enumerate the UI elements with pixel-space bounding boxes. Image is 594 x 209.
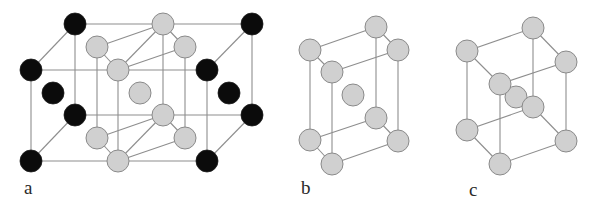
crystal-structures-figure: a b c (0, 0, 594, 209)
atom-gray-center (342, 84, 364, 106)
atom-gray-top-right (555, 51, 577, 73)
atom-black-bottom-back-left (64, 104, 86, 126)
atom-gray-top-front (489, 73, 511, 95)
atom-black-top-front-right (196, 59, 218, 81)
atom-gray-bottom-back (522, 96, 544, 118)
atom-gray-bottom-back (365, 107, 387, 129)
crystal-structures-svg (0, 0, 594, 209)
atom-gray-bottom-right (555, 130, 577, 152)
atom-black-bottom-front-left (20, 150, 42, 172)
atom-gray-center (129, 82, 151, 104)
atom-black-top-back-left (64, 13, 86, 35)
atom-gray-bottom-back (152, 104, 174, 126)
atom-gray-bottom-front (321, 153, 343, 175)
atom-gray-top-right (387, 39, 409, 61)
unit-cell-a (20, 13, 263, 172)
atom-black-face-left (42, 82, 64, 104)
atom-gray-top-front (107, 59, 129, 81)
unit-cell-b (299, 16, 409, 175)
atom-gray-bottom-right (387, 130, 409, 152)
panel-label-a: a (24, 178, 32, 197)
atom-gray-bottom-front (107, 150, 129, 172)
atom-black-bottom-front-right (196, 150, 218, 172)
atom-black-top-back-right (241, 13, 263, 35)
panel-label-b: b (301, 178, 311, 197)
atom-black-face-right (218, 82, 240, 104)
atom-black-bottom-back-right (241, 104, 263, 126)
atom-gray-top-left (456, 40, 478, 62)
atom-gray-top-front (321, 61, 343, 83)
atom-gray-bottom-left (456, 119, 478, 141)
atom-gray-bottom-front (489, 153, 511, 175)
atom-gray-top-back (522, 17, 544, 39)
atom-black-top-front-left (20, 59, 42, 81)
panel-label-c: c (469, 180, 477, 199)
atoms-b (299, 16, 409, 175)
atoms-c (456, 17, 577, 175)
atom-gray-top-left (299, 39, 321, 61)
atom-gray-top-back (152, 13, 174, 35)
unit-cell-c (456, 17, 577, 175)
atom-gray-top-back (365, 16, 387, 38)
atom-gray-top-right (174, 36, 196, 58)
atoms-a (20, 13, 263, 172)
atom-gray-top-left (86, 36, 108, 58)
atom-gray-bottom-left (86, 127, 108, 149)
atom-gray-bottom-left (299, 129, 321, 151)
atom-gray-bottom-right (174, 127, 196, 149)
